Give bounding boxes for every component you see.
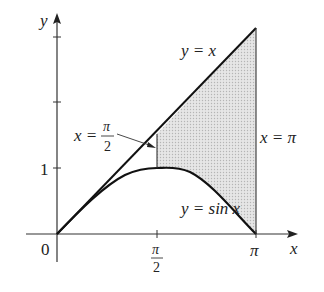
area-diagram: y x 0 1 π 2 π y = x y = sin x x = π x = …: [0, 0, 324, 292]
label-x-equals-pi: x = π: [259, 128, 297, 147]
origin-label: 0: [41, 240, 50, 259]
label-y-equals-sin-x: y = sin x: [179, 199, 241, 218]
x-tick-label-pi: π: [250, 241, 259, 260]
x-axis-label: x: [289, 239, 298, 258]
x-tick-label-pi-over-2-den: 2: [153, 260, 160, 275]
label-x-equals-pi-over-2-num: π: [103, 119, 111, 134]
x-tick-label-pi-over-2-num: π: [152, 242, 160, 257]
label-x-equals-pi-over-2-lhs: x =: [73, 126, 97, 145]
leader-arrow-icon: [147, 142, 156, 148]
y-axis-label: y: [38, 11, 48, 30]
label-x-equals-pi-over-2-den: 2: [104, 139, 111, 154]
label-y-equals-x: y = x: [179, 41, 217, 60]
y-tick-label-1: 1: [40, 160, 49, 179]
